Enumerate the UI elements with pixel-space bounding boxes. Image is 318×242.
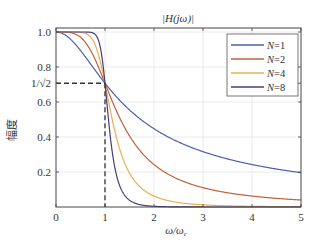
y-tick-label: 0.2 (37, 166, 51, 178)
x-tick-label: 1 (102, 211, 108, 223)
legend-entry: N=1 (266, 40, 285, 51)
chart-title: |H(jω)| (162, 12, 194, 25)
y-tick-label: 0.8 (37, 61, 51, 73)
y-axis-label: 幅度 (5, 119, 18, 141)
x-tick-label: 4 (249, 211, 255, 223)
legend-entry: N=8 (266, 82, 285, 93)
butterworth-chart: 0123450.20.40.61/√20.81.0|H(jω)|ω/ωc幅度N=… (0, 0, 318, 242)
y-tick-label: 0.4 (37, 131, 51, 143)
legend: N=1N=2N=4N=8 (227, 34, 298, 96)
x-tick-label: 2 (151, 211, 157, 223)
y-tick-label: 1/√2 (31, 77, 51, 89)
legend-entry: N=2 (266, 54, 285, 65)
y-tick-label: 0.6 (37, 96, 51, 108)
x-axis-label: ω/ωc (165, 224, 188, 238)
x-tick-label: 3 (200, 211, 206, 223)
legend-entry: N=4 (266, 68, 286, 79)
x-tick-label: 0 (53, 211, 59, 223)
y-tick-label: 1.0 (37, 26, 51, 38)
x-tick-label: 5 (298, 211, 304, 223)
